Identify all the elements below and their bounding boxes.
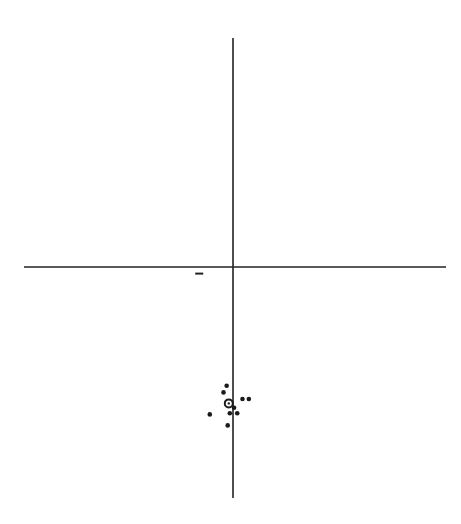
impact-point — [224, 384, 229, 389]
impact-point — [247, 397, 252, 402]
dispersion-chart — [0, 0, 461, 524]
group-center-dot — [228, 402, 230, 404]
impact-point — [221, 390, 226, 395]
impact-point — [240, 397, 245, 402]
impact-point — [235, 411, 240, 416]
marks — [195, 274, 251, 428]
axes — [24, 38, 446, 498]
impact-point — [207, 412, 212, 417]
impact-point — [228, 411, 233, 416]
impact-point — [225, 423, 230, 428]
